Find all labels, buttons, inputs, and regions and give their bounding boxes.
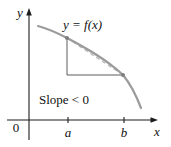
origin-label: 0 bbox=[13, 120, 20, 135]
tick-b-label: b bbox=[121, 125, 128, 140]
slope-annotation: Slope < 0 bbox=[39, 92, 89, 107]
figure-canvas: y x 0 a b y = f(x) Slope < 0 bbox=[0, 0, 171, 147]
curve-equation-label: y = f(x) bbox=[61, 17, 102, 32]
y-axis-label: y bbox=[15, 5, 23, 20]
point-b-dot bbox=[121, 73, 125, 77]
point-a-dot bbox=[65, 36, 69, 40]
x-axis-arrow-icon bbox=[151, 117, 159, 123]
tick-a-label: a bbox=[65, 125, 72, 140]
y-axis-arrow-icon bbox=[26, 8, 32, 16]
x-axis-label: x bbox=[153, 124, 160, 139]
calculus-slope-figure: y x 0 a b y = f(x) Slope < 0 bbox=[0, 0, 171, 147]
